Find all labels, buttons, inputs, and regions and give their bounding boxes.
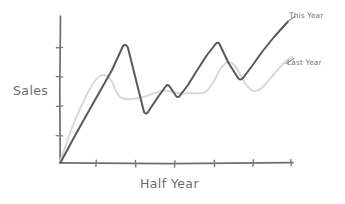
x-axis-line [60,163,294,164]
series-line-last-year [60,57,292,162]
series-label-this-year: This Year [289,11,323,20]
series-label-last-year: Last Year [287,58,322,67]
y-axis-line [60,16,61,163]
series-line-this-year [61,22,289,163]
sales-half-year-line-chart: Sales Half Year This Year Last Year [0,0,345,204]
y-axis-label: Sales [13,83,48,98]
chart-plot-area [0,0,345,204]
x-axis-label: Half Year [140,176,199,191]
y-tick [57,106,64,107]
